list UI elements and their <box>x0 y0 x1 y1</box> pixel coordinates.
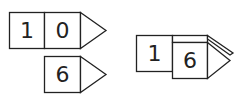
place-value-diagram: 1 0 6 1 6 <box>0 0 246 98</box>
digit-tens: 1 <box>20 18 34 43</box>
digit-six: 6 <box>56 62 70 87</box>
digit-combined-tens: 1 <box>148 41 162 66</box>
block-six <box>45 57 107 93</box>
digit-combined-ones: 6 <box>183 48 197 73</box>
digit-ones-zero: 0 <box>56 18 70 43</box>
